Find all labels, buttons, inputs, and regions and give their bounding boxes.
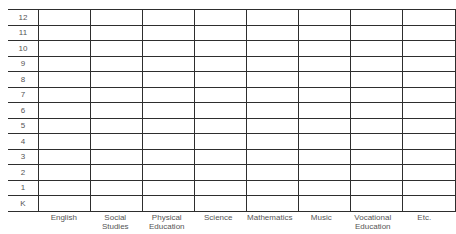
subject-label: English bbox=[38, 212, 90, 231]
grid-cell bbox=[39, 25, 91, 41]
grid-cell bbox=[39, 196, 91, 212]
grid-cell bbox=[195, 118, 247, 134]
grid-cell bbox=[299, 149, 351, 165]
grid-cell bbox=[403, 165, 456, 181]
grid-cell bbox=[351, 180, 403, 196]
grid-cell bbox=[39, 149, 91, 165]
grid-cell bbox=[91, 103, 143, 119]
subject-label-line: Vocational bbox=[347, 213, 399, 222]
subject-label-line: Education bbox=[141, 222, 193, 231]
grid-cell bbox=[91, 165, 143, 181]
grid-cell bbox=[195, 25, 247, 41]
grade-row: 12 bbox=[8, 10, 456, 26]
grid-cell bbox=[299, 41, 351, 57]
grid-cell bbox=[39, 10, 91, 26]
grade-label: 8 bbox=[8, 72, 39, 88]
subject-label: Mathematics bbox=[244, 212, 296, 231]
grade-row: 11 bbox=[8, 25, 456, 41]
grade-label: 4 bbox=[8, 134, 39, 150]
grid-cell bbox=[143, 149, 195, 165]
grid-cell bbox=[247, 134, 299, 150]
grid-cell bbox=[91, 56, 143, 72]
grade-label: K bbox=[8, 196, 39, 212]
grid-cell bbox=[247, 87, 299, 103]
grade-label: 2 bbox=[8, 165, 39, 181]
grade-row: 2 bbox=[8, 165, 456, 181]
grid-cell bbox=[247, 56, 299, 72]
grid-cell bbox=[91, 41, 143, 57]
grid-cell bbox=[299, 72, 351, 88]
grid-cell bbox=[39, 56, 91, 72]
grid-cell bbox=[403, 56, 456, 72]
grid-cell bbox=[247, 72, 299, 88]
grid-cell bbox=[39, 72, 91, 88]
grid-cell bbox=[351, 10, 403, 26]
grid-cell bbox=[403, 149, 456, 165]
subject-label: SocialStudies bbox=[90, 212, 142, 231]
grid-cell bbox=[247, 180, 299, 196]
grid-cell bbox=[195, 103, 247, 119]
grid-cell bbox=[91, 180, 143, 196]
subject-label: Music bbox=[296, 212, 348, 231]
grid-cell bbox=[299, 10, 351, 26]
grid-cell bbox=[351, 165, 403, 181]
grid-cell bbox=[247, 149, 299, 165]
grid-cell bbox=[351, 87, 403, 103]
grade-label: 6 bbox=[8, 103, 39, 119]
grid-cell bbox=[299, 165, 351, 181]
subject-label-line: Etc. bbox=[399, 213, 451, 222]
grid-cell bbox=[351, 56, 403, 72]
grade-row: 1 bbox=[8, 180, 456, 196]
grid-cell bbox=[403, 25, 456, 41]
grid-cell bbox=[91, 134, 143, 150]
grid-cell bbox=[299, 180, 351, 196]
grid-cell bbox=[195, 72, 247, 88]
grid-cell bbox=[143, 103, 195, 119]
grid-cell bbox=[143, 134, 195, 150]
grade-label: 7 bbox=[8, 87, 39, 103]
subject-label-line: Education bbox=[347, 222, 399, 231]
grade-row: K bbox=[8, 196, 456, 212]
grid-cell bbox=[299, 87, 351, 103]
grid-cell bbox=[143, 41, 195, 57]
grid-cell bbox=[351, 118, 403, 134]
grid-cell bbox=[91, 10, 143, 26]
grid-cell bbox=[351, 196, 403, 212]
grid-cell bbox=[195, 87, 247, 103]
grid-cell bbox=[247, 25, 299, 41]
grid-cell bbox=[195, 196, 247, 212]
grid-cell bbox=[91, 149, 143, 165]
grid-cell bbox=[403, 87, 456, 103]
grid-cell bbox=[143, 118, 195, 134]
grid-cell bbox=[195, 10, 247, 26]
grid-cell bbox=[351, 72, 403, 88]
grade-label: 12 bbox=[8, 10, 39, 26]
grid-cell bbox=[39, 103, 91, 119]
grid-cell bbox=[299, 103, 351, 119]
grade-label: 5 bbox=[8, 118, 39, 134]
grid-cell bbox=[143, 87, 195, 103]
grid-cell bbox=[403, 180, 456, 196]
grid-cell bbox=[403, 10, 456, 26]
grid-cell bbox=[39, 118, 91, 134]
grade-row: 10 bbox=[8, 41, 456, 57]
grade-label: 9 bbox=[8, 56, 39, 72]
grade-label: 10 bbox=[8, 41, 39, 57]
grid-cell bbox=[247, 10, 299, 26]
grid-cell bbox=[299, 196, 351, 212]
subject-label-line: Physical bbox=[141, 213, 193, 222]
grid-cell bbox=[91, 196, 143, 212]
grid-cell bbox=[195, 180, 247, 196]
curriculum-grid: 121110987654321K bbox=[8, 9, 450, 212]
grid-cell bbox=[91, 25, 143, 41]
grade-label: 1 bbox=[8, 180, 39, 196]
grid-cell bbox=[195, 56, 247, 72]
grid-cell bbox=[351, 41, 403, 57]
grid-cell bbox=[39, 41, 91, 57]
subject-label-line: Music bbox=[296, 213, 348, 222]
grid-cell bbox=[143, 10, 195, 26]
grade-subject-table: 121110987654321K bbox=[8, 9, 456, 212]
grid-cell bbox=[247, 118, 299, 134]
grid-cell bbox=[143, 56, 195, 72]
subject-label: Etc. bbox=[399, 212, 451, 231]
